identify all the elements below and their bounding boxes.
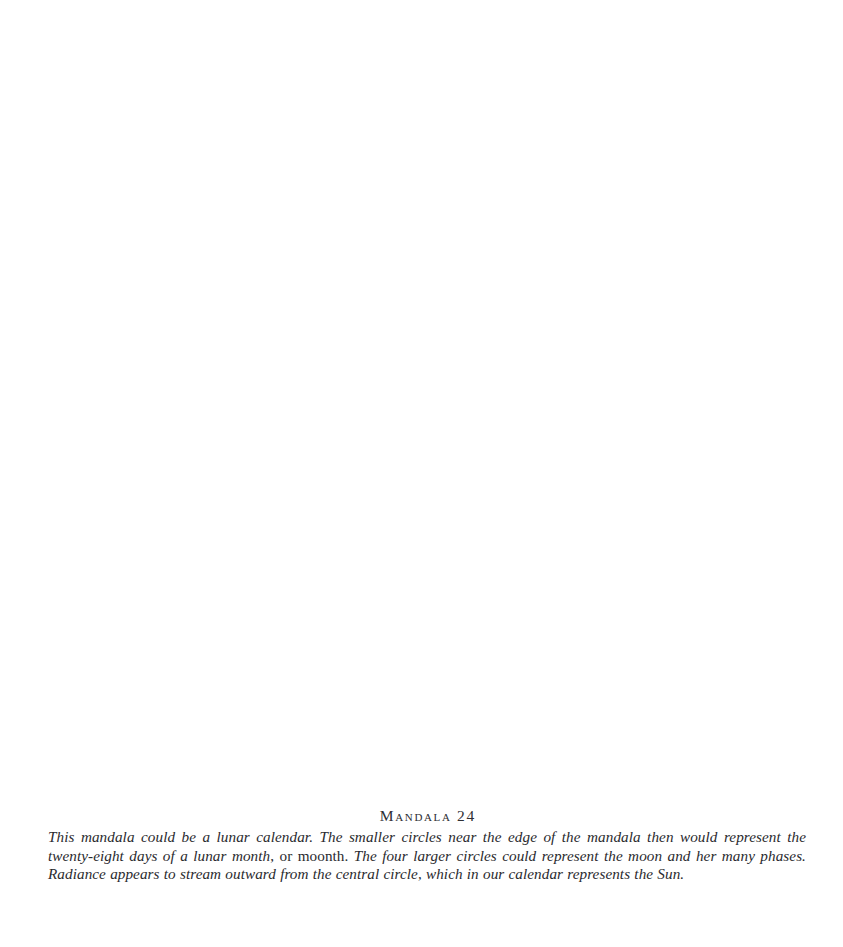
mandala-plate-area: [0, 0, 843, 800]
caption-title: Mandala 24: [48, 806, 806, 825]
caption-body-segment-roman: , or moonth.: [270, 847, 348, 864]
caption-body: This mandala could be a lunar calendar. …: [48, 828, 806, 884]
caption-block: Mandala 24 This mandala could be a lunar…: [48, 806, 806, 884]
book-page: Mandala 24 This mandala could be a lunar…: [0, 0, 843, 947]
